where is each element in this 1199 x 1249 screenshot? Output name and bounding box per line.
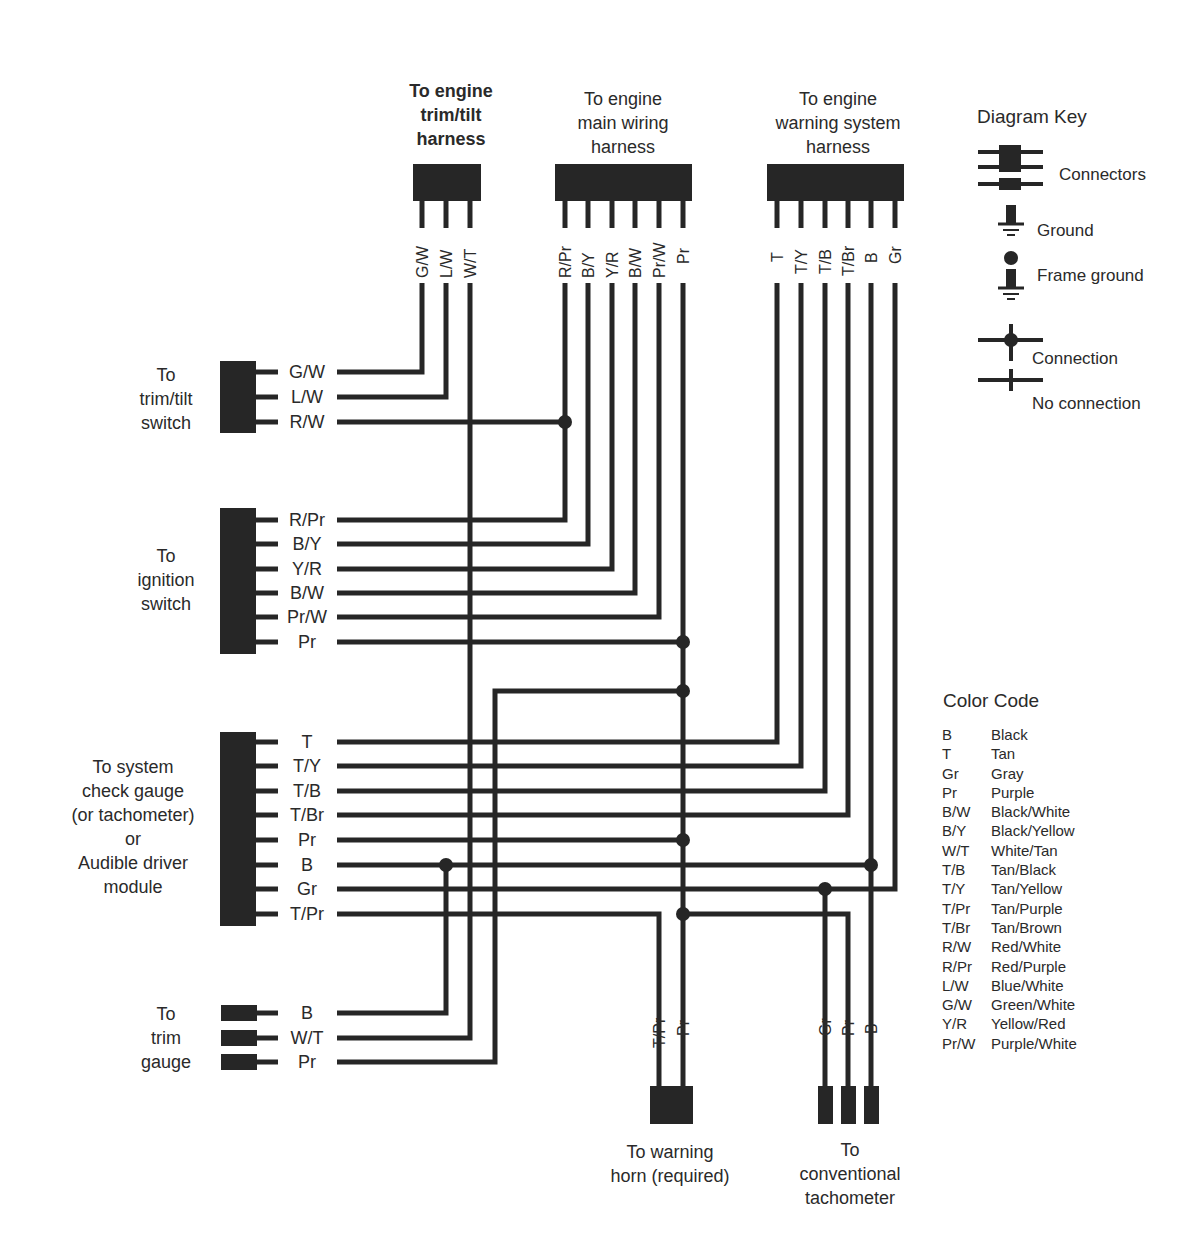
ignition-switch-label: To ignition switch <box>120 544 212 616</box>
color-code: Gr <box>942 764 991 783</box>
color-code-row: Y/RYellow/Red <box>942 1014 1077 1033</box>
wire-t-b <box>337 283 825 791</box>
pin-label: B/Y <box>580 252 597 278</box>
wire-g-w <box>337 283 422 372</box>
pin-label: Pr <box>675 1019 692 1036</box>
warning-horn-label: To warning horn (required) <box>590 1140 750 1188</box>
wire-l-w <box>337 283 446 397</box>
color-code-row: GrGray <box>942 764 1077 783</box>
key-label-connectors: Connectors <box>1059 165 1146 185</box>
pin-label: T/Y <box>293 756 321 776</box>
color-code-row: PrPurple <box>942 783 1077 802</box>
color-code-row: T/BTan/Black <box>942 860 1077 879</box>
color-name: Black <box>991 725 1028 744</box>
color-code: G/W <box>942 995 991 1014</box>
color-code-row: W/TWhite/Tan <box>942 841 1077 860</box>
color-code: T/B <box>942 860 991 879</box>
system-check-gauge-connector <box>220 732 278 926</box>
pin-label: T/Pr <box>651 1017 668 1048</box>
color-name: Tan/Purple <box>991 899 1063 918</box>
color-code: B <box>942 725 991 744</box>
color-code-row: R/WRed/White <box>942 937 1077 956</box>
color-code: Y/R <box>942 1014 991 1033</box>
pin-label: T <box>302 732 313 752</box>
color-code: Pr <box>942 783 991 802</box>
pin-label: T/Pr <box>290 904 324 924</box>
pin-label: B <box>863 252 880 263</box>
pin-label: Pr/W <box>287 607 327 627</box>
color-code-row: B/YBlack/Yellow <box>942 821 1077 840</box>
pin-label: Gr <box>297 879 317 899</box>
color-code-row: T/PrTan/Purple <box>942 899 1077 918</box>
pin-label: Pr <box>298 1052 316 1072</box>
main-wiring-harness-connector <box>555 164 692 228</box>
pin-label: B/Y <box>292 534 321 554</box>
wire-r-pr <box>337 283 565 520</box>
pin-label: T/Br <box>840 245 857 276</box>
color-name: Green/White <box>991 995 1075 1014</box>
key-label-no-connection: No connection <box>1032 394 1141 414</box>
wire-t <box>337 283 777 742</box>
wire-t-br <box>337 283 848 815</box>
color-name: Red/Purple <box>991 957 1066 976</box>
key-label-connection: Connection <box>1032 349 1118 369</box>
key-label-ground: Ground <box>1037 221 1094 241</box>
color-name: Tan/Black <box>991 860 1056 879</box>
color-code-title: Color Code <box>943 690 1039 712</box>
pin-label: T <box>769 252 786 262</box>
color-name: Black/White <box>991 802 1070 821</box>
pin-label: G/W <box>289 362 325 382</box>
wires <box>337 283 895 1062</box>
pin-label: R/Pr <box>557 245 574 278</box>
connectors-icon <box>978 145 1043 190</box>
trim-tilt-switch-connector <box>220 361 278 433</box>
pin-label: Pr/W <box>651 242 668 278</box>
pin-label: B <box>301 1003 313 1023</box>
color-name: Purple/White <box>991 1034 1077 1053</box>
warning-system-harness-title: To engine warning system harness <box>754 87 922 159</box>
pin-label: B <box>301 855 313 875</box>
pin-label: Pr <box>840 1019 857 1036</box>
color-name: Black/Yellow <box>991 821 1075 840</box>
color-name: Red/White <box>991 937 1061 956</box>
trim-tilt-harness-title: To engine trim/tilt harness <box>394 79 508 151</box>
pin-label: L/W <box>291 387 323 407</box>
pin-label: Pr <box>298 632 316 652</box>
pin-label: G/W <box>414 245 431 278</box>
pin-label: R/Pr <box>289 510 325 530</box>
color-name: Purple <box>991 783 1034 802</box>
color-code-row: Pr/WPurple/White <box>942 1034 1077 1053</box>
pin-label: Y/R <box>604 251 621 278</box>
conventional-tachometer-connector <box>818 1056 879 1124</box>
pin-label: Y/R <box>292 559 322 579</box>
color-name: Tan <box>991 744 1015 763</box>
main-wiring-harness-title: To engine main wiring harness <box>548 87 698 159</box>
trim-gauge-label: To trim gauge <box>120 1002 212 1074</box>
wire-y-r <box>337 283 612 569</box>
pin-label: W/T <box>291 1028 324 1048</box>
color-code: R/Pr <box>942 957 991 976</box>
ignition-switch-connector <box>220 508 278 654</box>
pin-label: B <box>863 1023 880 1034</box>
warning-system-harness-connector <box>767 164 904 228</box>
conventional-tachometer-label: To conventional tachometer <box>775 1138 925 1210</box>
key-label-frame-ground: Frame ground <box>1037 266 1144 286</box>
pin-label: L/W <box>438 249 455 278</box>
pin-label: B/W <box>290 583 324 603</box>
no-connection-icon <box>978 369 1043 391</box>
pin-label: Pr <box>675 247 692 264</box>
color-code: B/W <box>942 802 991 821</box>
trim-tilt-switch-label: To trim/tilt switch <box>120 363 212 435</box>
pin-label: W/T <box>462 248 479 278</box>
pin-label: Gr <box>817 1018 834 1036</box>
color-code-row: T/YTan/Yellow <box>942 879 1077 898</box>
trim-tilt-harness-connector <box>413 164 481 228</box>
diagram-key-title: Diagram Key <box>977 106 1087 128</box>
color-code: R/W <box>942 937 991 956</box>
color-code-row: B/WBlack/White <box>942 802 1077 821</box>
color-code: W/T <box>942 841 991 860</box>
color-code: B/Y <box>942 821 991 840</box>
wire-t-y <box>337 283 801 766</box>
pin-label: B/W <box>627 247 644 278</box>
system-check-gauge-label: To system check gauge (or tachometer) or… <box>44 755 222 899</box>
